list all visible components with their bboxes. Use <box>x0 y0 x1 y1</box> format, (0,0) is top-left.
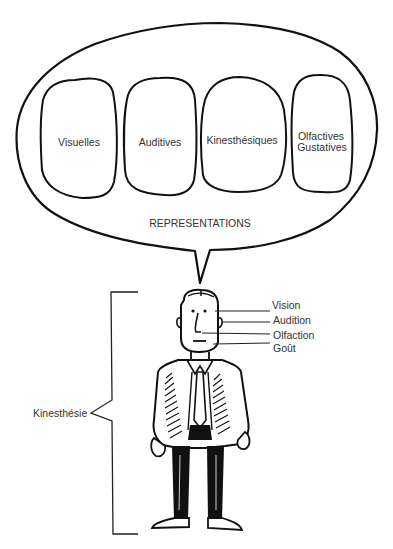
box-label-auditives: Auditives <box>139 136 182 148</box>
right-shoe <box>208 518 242 530</box>
kinesthesie-bracket <box>91 292 138 534</box>
sense-label-vision: Vision <box>272 299 300 311</box>
box-label-visuelles: Visuelles <box>58 136 100 148</box>
sense-label-audition: Audition <box>273 314 311 326</box>
box-label-gustatives: Gustatives <box>297 141 347 153</box>
left-shoe <box>152 518 189 528</box>
diagram-canvas <box>0 0 393 549</box>
bracket-label-kinesthesie: Kinesthésie <box>33 407 87 419</box>
left-leg <box>172 446 190 520</box>
right-eye <box>203 309 206 312</box>
sense-label-olfaction: Olfaction <box>273 329 314 341</box>
tie <box>194 372 206 428</box>
right-leg <box>207 446 224 520</box>
left-eye <box>191 309 194 312</box>
person-figure <box>151 290 249 530</box>
head <box>181 290 218 352</box>
sense-label-gout: Goût <box>273 342 296 354</box>
bubble-title: REPRESENTATIONS <box>149 217 251 229</box>
box-label-kinesthesiques: Kinesthésiques <box>206 134 277 146</box>
